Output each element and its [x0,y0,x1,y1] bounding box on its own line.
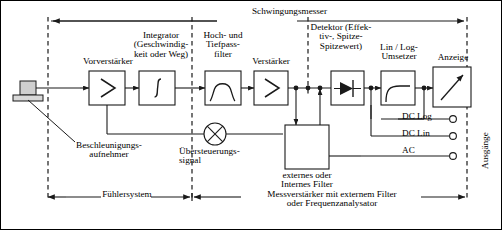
terminal-dclog [450,116,457,123]
terminal-ac [450,153,457,160]
sensor-label: Beschleunigungs- aufnehmer [56,141,162,160]
bracket-label-sensor-system: Fühlersystem [100,190,154,199]
terminal-label-dclin: DC Lin [402,129,448,138]
block-label-integrator: Integrator (Geschwindig- keit oder Weg) [125,31,197,59]
terminal-label-dclog: DC Log [402,112,448,121]
block-preamp [89,71,125,105]
outputs-group-label: Ausgänge [481,103,490,169]
terminal-dclin [450,133,457,140]
diagram-title: Schwingungsmesser [232,7,347,16]
block-amplifier [254,71,288,105]
block-label-bandpass: Hoch- und Tiefpass- filter [193,31,253,59]
bracket-label-measuring-amp: Messverstärker mit externem Filter oder … [237,190,427,209]
block-label-external-filter: externes oder Internes Filter [273,171,341,190]
block-label-amplifier: Verstärker [239,57,303,66]
block-external-filter [285,125,329,169]
accelerometer-icon [13,81,80,142]
terminal-label-ac: AC [402,146,448,155]
block-label-display: Anzeige [429,53,477,62]
block-label-converter: Lin / Log- Umsetzer [374,43,424,62]
diagram-canvas: Schwingungsmesser Vorverstärker Integrat… [0,0,502,230]
overload-label: Übersteuerungs- signal [179,147,275,166]
overload-lamp-icon [204,123,226,145]
block-label-detector: Detektor (Effek- tiv-, Spitze- Spitzewer… [297,23,385,51]
